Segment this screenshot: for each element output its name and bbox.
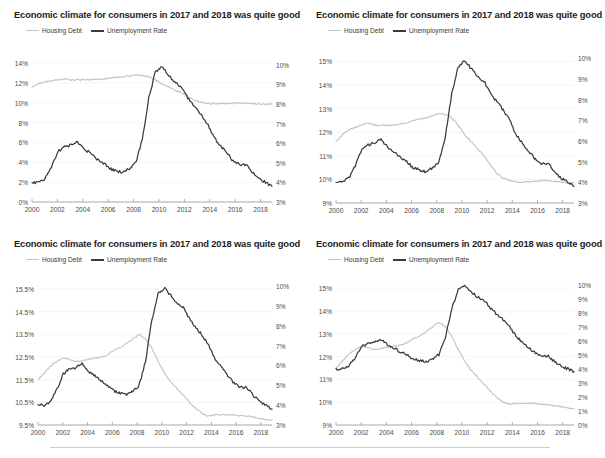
y-axis-left-tick: 14% [319,82,332,89]
x-axis-tick: 2014 [505,207,520,214]
y-axis-left-tick: 10.5% [15,399,34,406]
x-axis-tick: 2014 [505,429,520,436]
x-axis-tick: 2008 [130,429,145,436]
y-axis-left-tick: 11% [319,376,332,383]
y-axis-right-tick: 5% [276,382,286,389]
series-line-unemployment-rate [32,67,272,187]
y-axis-right-tick: 3% [276,199,286,206]
series-line-housing-debt [336,114,574,184]
y-axis-right-tick: 8% [578,96,588,103]
x-axis-tick: 2006 [404,207,419,214]
x-axis-tick: 2000 [31,429,46,436]
x-axis-tick: 2018 [555,429,570,436]
x-axis-tick: 2004 [75,206,90,213]
y-axis-left-tick: 12.5% [15,354,34,361]
y-axis-right-tick: 7% [578,323,588,330]
x-axis-tick: 2000 [25,206,40,213]
x-axis-tick: 2016 [530,207,545,214]
x-axis-tick: 2014 [202,206,217,213]
y-axis-right-tick: 8% [276,100,286,107]
x-axis-tick: 2014 [204,429,219,436]
y-axis-right-tick: 10% [578,281,591,288]
x-axis-tick: 2004 [379,429,394,436]
chart-grid: Economic climate for consumers in 2017 a… [0,0,605,458]
y-axis-left-tick: 11% [319,152,332,159]
y-axis-left-tick: 0% [18,199,28,206]
y-axis-right-tick: 4% [276,179,286,186]
x-axis-tick: 2012 [480,429,495,436]
y-axis-right-tick: 9% [578,295,588,302]
y-axis-left-tick: 10% [319,176,332,183]
chart-panel-bottom-left: Economic climate for consumers in 2017 a… [0,229,302,458]
y-axis-right-tick: 0% [578,422,588,429]
y-axis-right-tick: 5% [578,351,588,358]
y-axis-right-tick: 3% [578,379,588,386]
y-axis-right-tick: 9% [578,75,588,82]
y-axis-left-tick: 14% [319,307,332,314]
y-axis-right-tick: 1% [578,407,588,414]
x-axis-tick: 2004 [80,429,95,436]
x-axis-tick: 2016 [229,429,244,436]
chart-panel-top-right: Economic climate for consumers in 2017 a… [302,0,605,229]
y-axis-right-tick: 6% [276,362,286,369]
footer-divider [50,447,550,448]
x-axis-tick: 2006 [404,429,419,436]
plot-area [0,229,302,458]
y-axis-right-tick: 8% [578,309,588,316]
x-axis-tick: 2012 [177,206,192,213]
y-axis-left-tick: 15.5% [15,286,34,293]
x-axis-tick: 2002 [55,429,70,436]
plot-area [302,229,605,458]
y-axis-right-tick: 4% [578,365,588,372]
series-line-housing-debt [32,74,272,104]
y-axis-left-tick: 9.5% [19,422,34,429]
y-axis-left-tick: 9% [322,200,332,207]
y-axis-right-tick: 7% [276,342,286,349]
y-axis-right-tick: 10% [578,55,591,62]
x-axis-tick: 2006 [105,429,120,436]
x-axis-tick: 2002 [354,207,369,214]
series-line-unemployment-rate [38,288,272,409]
y-axis-left-tick: 13% [319,105,332,112]
y-axis-right-tick: 4% [276,402,286,409]
x-axis-tick: 2010 [154,429,169,436]
y-axis-left-tick: 12% [319,129,332,136]
x-axis-tick: 2002 [50,206,65,213]
y-axis-left-tick: 10% [15,99,28,106]
y-axis-right-tick: 6% [276,140,286,147]
y-axis-right-tick: 8% [276,322,286,329]
x-axis-tick: 2000 [329,207,344,214]
y-axis-left-tick: 12% [15,79,28,86]
x-axis-tick: 2002 [354,429,369,436]
x-axis-tick: 2008 [429,429,444,436]
y-axis-right-tick: 7% [578,117,588,124]
x-axis-tick: 2016 [530,429,545,436]
y-axis-left-tick: 15% [319,285,332,292]
y-axis-right-tick: 6% [578,137,588,144]
x-axis-tick: 2018 [254,429,269,436]
y-axis-right-tick: 3% [578,200,588,207]
x-axis-tick: 2010 [455,429,470,436]
chart-panel-top-left: Economic climate for consumers in 2017 a… [0,0,302,229]
x-axis-tick: 2000 [329,429,344,436]
y-axis-right-tick: 4% [578,179,588,186]
y-axis-left-tick: 8% [18,119,28,126]
y-axis-right-tick: 10% [276,282,289,289]
y-axis-left-tick: 2% [18,179,28,186]
x-axis-tick: 2008 [126,206,141,213]
x-axis-tick: 2012 [179,429,194,436]
y-axis-right-tick: 9% [276,81,286,88]
y-axis-right-tick: 9% [276,302,286,309]
y-axis-left-tick: 13.5% [15,331,34,338]
y-axis-right-tick: 6% [578,337,588,344]
y-axis-right-tick: 2% [578,393,588,400]
x-axis-tick: 2012 [480,207,495,214]
chart-panel-bottom-right: Economic climate for consumers in 2017 a… [302,229,605,458]
series-line-unemployment-rate [336,285,574,372]
y-axis-left-tick: 11.5% [16,376,34,383]
plot-area [302,0,605,229]
plot-area [0,0,302,229]
y-axis-right-tick: 5% [578,158,588,165]
x-axis-tick: 2018 [555,207,570,214]
y-axis-right-tick: 3% [276,422,286,429]
